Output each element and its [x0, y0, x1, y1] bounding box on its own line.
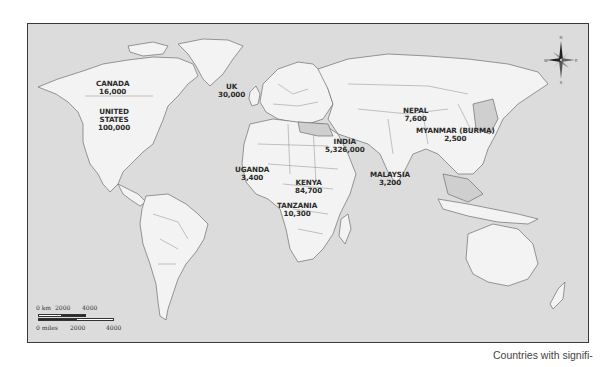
- label-value: 10,300: [277, 210, 317, 218]
- scale-miles-tick-2000: 2000: [70, 324, 85, 331]
- label-tanzania: TANZANIA 10,300: [277, 202, 317, 218]
- scale-miles-label: 0 miles: [36, 324, 58, 331]
- scale-km-tick-4000: 4000: [82, 304, 97, 311]
- scale-km-tick-2000: 2000: [55, 304, 70, 311]
- label-value: 2,500: [416, 135, 495, 143]
- compass-rose-icon: N W E S: [543, 33, 579, 85]
- map-frame: CANADA 16,000 UNITED STATES 100,000 UK 3…: [27, 23, 589, 343]
- label-malaysia: MALAYSIA 3,200: [370, 171, 410, 187]
- scale-km-label: 0 km: [36, 304, 51, 311]
- central-america: [118, 184, 146, 206]
- figure-caption: Countries with signifi-: [493, 349, 593, 361]
- arctic-islands: [128, 42, 168, 56]
- indonesia: [438, 199, 538, 224]
- south-america: [140, 194, 208, 320]
- label-value: 5,326,000: [325, 146, 365, 154]
- scale-km-segment-1: [38, 314, 62, 317]
- compass-e: E: [575, 58, 578, 63]
- label-value: 100,000: [98, 124, 130, 132]
- label-united-states: UNITED STATES 100,000: [98, 108, 130, 132]
- label-uganda: UGANDA 3,400: [235, 166, 269, 182]
- scale-km-segment-2: [62, 314, 86, 317]
- label-value: 30,000: [218, 91, 245, 99]
- label-india: INDIA 5,326,000: [325, 138, 365, 154]
- scale-miles-segment-2: [76, 318, 114, 321]
- label-value: 3,200: [370, 179, 410, 187]
- label-value: 16,000: [96, 88, 129, 96]
- label-value: 3,400: [235, 174, 269, 182]
- label-value: 84,700: [295, 187, 322, 195]
- madagascar: [339, 214, 351, 244]
- compass-s: S: [560, 80, 563, 85]
- compass-n: N: [560, 35, 563, 40]
- label-value: 7,600: [403, 115, 428, 123]
- new-zealand: [550, 282, 565, 309]
- scale-miles-tick-4000: 4000: [106, 324, 121, 331]
- label-kenya: KENYA 84,700: [295, 179, 322, 195]
- label-nepal: NEPAL 7,600: [403, 107, 428, 123]
- scale-bar: 0 km 2000 4000 0 miles 2000 4000: [34, 302, 144, 338]
- scale-miles-segment-1: [38, 318, 76, 321]
- label-canada: CANADA 16,000: [96, 80, 129, 96]
- southeast-asia-highlight: [443, 174, 483, 202]
- label-uk: UK 30,000: [218, 83, 245, 99]
- uk: [249, 86, 260, 106]
- compass-w: W: [544, 58, 548, 63]
- label-myanmar: MYANMAR (BURMA) 2,500: [416, 127, 495, 143]
- australia: [466, 224, 538, 286]
